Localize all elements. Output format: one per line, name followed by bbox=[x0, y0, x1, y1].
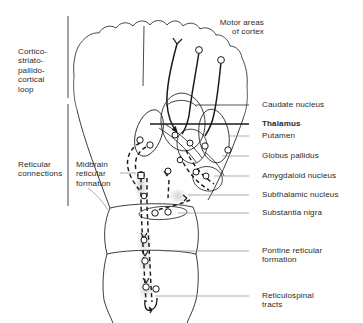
thalamocortical-terminal bbox=[173, 38, 182, 44]
label-thalamus: Thalamus bbox=[262, 119, 301, 128]
reticulospinal-terminals bbox=[145, 298, 157, 313]
label-reticulospinal-tracts: Reticulospinal tracts bbox=[262, 291, 346, 310]
cortex-lateral-walls bbox=[74, 76, 248, 116]
label-pontine-reticular-formation: Pontine reticular formation bbox=[262, 246, 346, 265]
midbrain-reticular-soma bbox=[138, 173, 144, 179]
label-caudate-nucleus: Caudate nucleus bbox=[262, 100, 324, 109]
label-subthalamic-nucleus: Subthalamic nucleus bbox=[262, 190, 339, 199]
group-label-reticular-connections: Reticular connections bbox=[18, 160, 66, 179]
leader-lines bbox=[88, 105, 249, 296]
label-substantia-nigra: Substantia nigra bbox=[262, 208, 322, 217]
brainstem-outline bbox=[77, 110, 244, 323]
label-putamen: Putamen bbox=[262, 131, 295, 140]
figure-canvas: Motor areas of cortex Cortico- striato- … bbox=[0, 0, 363, 323]
label-globus-pallidus: Globus pallidus bbox=[262, 151, 319, 160]
neuron-somata bbox=[137, 132, 231, 292]
reticular-dashed-pathways bbox=[128, 143, 215, 302]
label-amygdaloid-nucleus: Amygdaloid nucleus bbox=[262, 171, 336, 180]
motor-areas-label: Motor areas of cortex bbox=[196, 18, 264, 37]
corticostriatal-fibers bbox=[167, 44, 221, 136]
group-label-cortico-loop: Cortico- striato- pallido- cortical loop bbox=[18, 47, 64, 94]
label-midbrain-reticular-formation: Midbrain reticular formation bbox=[76, 160, 122, 188]
cortical-neuron-somata bbox=[196, 47, 225, 64]
